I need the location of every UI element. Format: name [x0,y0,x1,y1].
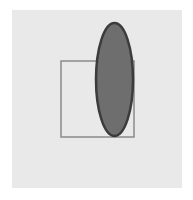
diagram-svg [0,0,193,200]
ellipse-shape [96,23,133,136]
